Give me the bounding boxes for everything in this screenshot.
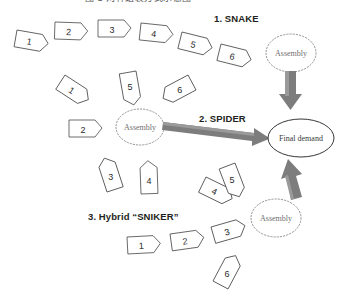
diagram-canvas: 1 2 3 4 5 6 bbox=[0, 0, 338, 291]
snake-stage-6: 6 bbox=[217, 44, 253, 68]
spider-stage-4-number: 4 bbox=[146, 176, 151, 186]
node-final-demand-label: Final demand bbox=[279, 134, 323, 143]
spider-stage-6-number: 6 bbox=[177, 85, 182, 95]
spider-stage-2-number: 2 bbox=[80, 125, 85, 135]
spider-stage-4: 4 bbox=[140, 160, 158, 194]
flow-snake-to-final-demand bbox=[279, 71, 302, 110]
node-assembly-snake-label: Assembly bbox=[275, 49, 307, 58]
node-final-demand: Final demand bbox=[268, 119, 334, 157]
group-label-snake: 1. SNAKE bbox=[214, 13, 259, 24]
snake-stage-4-number: 4 bbox=[151, 29, 157, 39]
snake-stage-2-number: 2 bbox=[66, 27, 71, 37]
hybrid-stage-1: 1 bbox=[127, 235, 161, 254]
group-label-spider: 2. SPIDER bbox=[199, 113, 246, 124]
flow-hybrid-to-final-demand bbox=[281, 159, 302, 200]
node-assembly-snake: Assembly bbox=[266, 34, 316, 72]
spider-stage-5: 5 bbox=[119, 71, 141, 106]
node-assembly-spider-label: Assembly bbox=[124, 123, 156, 132]
node-assembly-hybrid: Assembly bbox=[251, 199, 301, 237]
snake-stage-3: 3 bbox=[98, 20, 131, 37]
snake-stage-4: 4 bbox=[139, 23, 174, 43]
snake-stage-3-number: 3 bbox=[109, 25, 114, 35]
snake-stage-1: 1 bbox=[14, 30, 49, 52]
snake-stage-2: 2 bbox=[54, 22, 88, 40]
group-label-hybrid: 3. Hybrid “SNIKER” bbox=[88, 211, 178, 222]
spider-stage-3: 3 bbox=[97, 155, 123, 192]
spider-stage-5-number: 5 bbox=[128, 82, 133, 92]
node-assembly-spider: Assembly bbox=[116, 109, 164, 145]
spider-stage-6: 6 bbox=[159, 75, 196, 106]
node-assembly-hybrid-label: Assembly bbox=[260, 214, 292, 223]
hybrid-stage-3: 3 bbox=[211, 218, 247, 243]
spider-stage-2: 2 bbox=[69, 120, 102, 137]
hybrid-stage-6: 6 bbox=[213, 252, 244, 289]
hybrid-stage-6-number: 6 bbox=[225, 269, 230, 279]
hybrid-stage-2: 2 bbox=[170, 229, 205, 250]
hybrid-stage-1-number: 1 bbox=[139, 241, 145, 251]
spider-stage-1: 1 bbox=[56, 75, 93, 107]
figure-container: 图 1 两种组装方式示意图 1 2 3 bbox=[0, 0, 338, 291]
flow-spider-to-final-demand bbox=[162, 122, 270, 146]
hybrid-stage-5-number: 5 bbox=[230, 175, 235, 185]
spider-stage-3-number: 3 bbox=[108, 172, 113, 182]
snake-stage-5: 5 bbox=[178, 32, 214, 56]
